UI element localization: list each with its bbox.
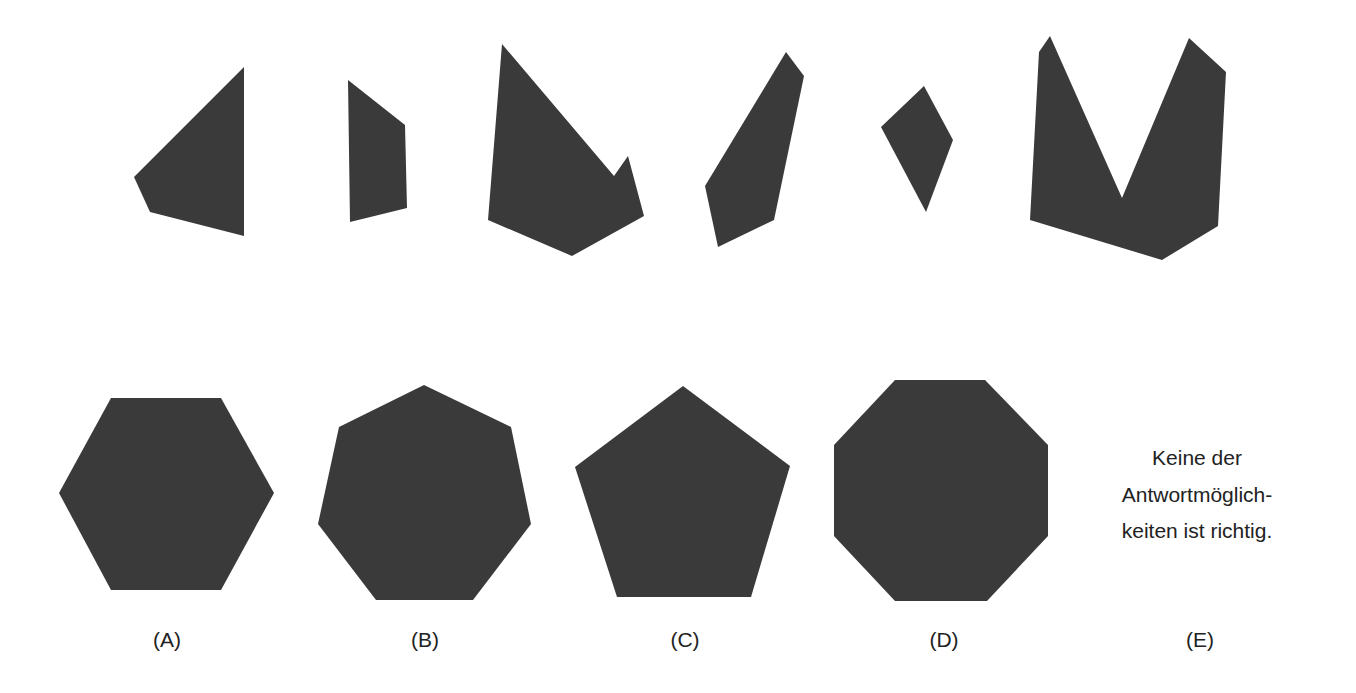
option-e-label[interactable]: (E)	[1186, 628, 1214, 652]
piece-1	[134, 67, 244, 236]
option-d-label[interactable]: (D)	[929, 628, 958, 652]
piece-5	[881, 86, 953, 212]
pieces-row	[134, 36, 1226, 260]
puzzle-figure	[0, 0, 1356, 693]
answer-options-row	[59, 380, 1048, 601]
piece-3	[488, 44, 644, 256]
piece-6	[1030, 36, 1226, 260]
option-a-label[interactable]: (A)	[153, 628, 181, 652]
option-e-line-3: keiten ist richtig.	[1097, 513, 1297, 550]
piece-2	[348, 80, 407, 222]
option-b-heptagon[interactable]	[318, 385, 531, 600]
option-e-text[interactable]: Keine der Antwortmöglich- keiten ist ric…	[1097, 440, 1297, 550]
option-e-line-2: Antwortmöglich-	[1097, 477, 1297, 514]
option-c-label[interactable]: (C)	[670, 628, 699, 652]
option-a-hexagon[interactable]	[59, 398, 274, 590]
option-d-octagon[interactable]	[834, 380, 1048, 601]
piece-4	[705, 52, 804, 247]
option-e-line-1: Keine der	[1097, 440, 1297, 477]
option-b-label[interactable]: (B)	[411, 628, 439, 652]
option-c-pentagon[interactable]	[575, 386, 790, 597]
